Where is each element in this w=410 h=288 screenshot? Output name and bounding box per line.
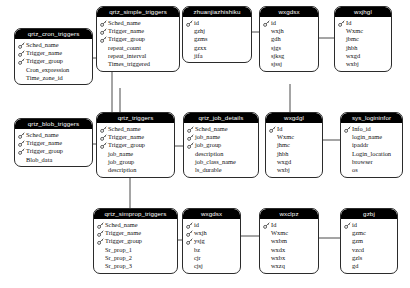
entity-table-qrtz_simprop_triggers[interactable]: qrtz_simprop_triggersSched_nameTrigger_n…	[93, 208, 178, 274]
field-name: Trigger_group	[26, 57, 63, 64]
primary-key-field: Trigger_name	[94, 229, 177, 237]
field-name: sjgs	[271, 44, 281, 51]
entity-title: wxjhgl	[335, 7, 391, 17]
field-row: gzls	[341, 254, 397, 262]
entity-table-wxclpz[interactable]: wxclpzIdWxmcwxbmwxdxwxbxwxzq	[259, 208, 319, 274]
field-row: Wxmc	[335, 27, 391, 35]
primary-key-field: Trigger_group	[97, 141, 174, 149]
entity-table-zhuanjiazhishiku[interactable]: zhuanjiazhishikuidgzhjgzmsgzxxjifa	[182, 6, 252, 63]
field-row: ls_durable	[184, 166, 258, 174]
field-name: Wxmc	[346, 27, 363, 34]
primary-key-field: Sched_name	[97, 19, 179, 27]
field-row: Sr_prop_1	[94, 246, 177, 254]
entity-table-qrtz_job_details[interactable]: qrtz_job_detailsSched_namejob_namejob_gr…	[183, 112, 259, 178]
field-name: Sr_prop_3	[105, 262, 132, 269]
field-name: Wxmc	[271, 229, 288, 236]
key-icon	[100, 20, 107, 27]
entity-table-qrtz_blob_triggers[interactable]: qrtz_blob_triggersSched_nameTrigger_name…	[14, 118, 93, 167]
entity-field-list: Sched_nameTrigger_nameTrigger_groupSr_pr…	[94, 219, 177, 273]
field-row: jifa	[183, 52, 251, 60]
field-name: cjsj	[194, 262, 203, 269]
primary-key-field: Trigger_group	[15, 147, 92, 155]
field-name: gzhj	[194, 27, 205, 34]
field-row: wxgd	[266, 158, 322, 166]
entity-field-list: Sched_nameTrigger_nameTrigger_groupBlob_…	[15, 129, 92, 166]
key-icon	[344, 222, 351, 229]
field-name: id	[194, 221, 199, 228]
entity-title: qrtz_job_details	[184, 113, 258, 123]
field-name: job_name	[108, 150, 133, 157]
field-name: gzmc	[352, 229, 366, 236]
key-icon	[186, 238, 193, 245]
field-name: wxdx	[271, 246, 285, 253]
primary-key-field: Trigger_group	[94, 237, 177, 245]
field-name: browser	[352, 158, 373, 165]
field-name: Login_location	[352, 150, 391, 157]
field-name: wxbj	[346, 60, 359, 67]
field-name: sjssj	[271, 60, 282, 67]
field-row: cjr	[183, 254, 240, 262]
field-row: wxbj	[335, 60, 391, 68]
field-name: Sched_name	[26, 41, 59, 48]
field-row: jhmc	[266, 141, 322, 149]
field-row: Blob_data	[15, 156, 92, 164]
field-row: wxbj	[266, 166, 322, 174]
entity-table-wxgdsx_bottom[interactable]: wxgdsxidwxjhysjgbzcjrcjsj	[182, 208, 241, 274]
field-name: Id	[277, 125, 282, 132]
field-name: ipaddr	[352, 141, 368, 148]
field-row: gzxx	[183, 44, 251, 52]
field-row: os	[341, 166, 402, 174]
field-row: job_group	[97, 158, 174, 166]
field-name: wxbm	[271, 237, 287, 244]
field-row: wxjh	[260, 27, 318, 35]
entity-table-wxgdsx_top[interactable]: wxgdsxidwxjhgdhsjgssjksgsjssj	[259, 6, 319, 72]
field-name: id	[271, 19, 276, 26]
field-name: Trigger_group	[108, 35, 145, 42]
field-name: Sched_name	[105, 221, 138, 228]
field-name: Trigger_name	[108, 133, 144, 140]
primary-key-field: job_group	[184, 141, 258, 149]
field-name: description	[195, 150, 223, 157]
field-name: jhmc	[277, 141, 290, 148]
field-name: repeat_interval	[108, 52, 146, 59]
field-row: Login_location	[341, 150, 402, 158]
field-name: sjksg	[271, 52, 284, 59]
key-icon	[338, 20, 345, 27]
entity-field-list: IdWxmcjbmcjhbhwxgdwxbj	[335, 17, 391, 71]
field-row: bz	[183, 246, 240, 254]
field-row: login_name	[341, 133, 402, 141]
field-row: job_name	[97, 150, 174, 158]
entity-table-wxjhgl[interactable]: wxjhglIdWxmcjbmcjhbhwxgdwxbj	[334, 6, 392, 72]
field-row: vzcd	[341, 246, 397, 254]
key-icon	[186, 230, 193, 237]
entity-table-wxgdgl[interactable]: wxgdglIdWxmcjhmcjhbhwxgdwxbj	[265, 112, 323, 178]
field-name: vzcd	[352, 246, 364, 253]
field-row: jbmc	[335, 35, 391, 43]
primary-key-field: Sched_name	[15, 131, 92, 139]
entity-table-qrtz_triggers[interactable]: qrtz_triggersSched_nameTrigger_nameTrigg…	[96, 112, 175, 178]
entity-table-sys_logininfor[interactable]: sys_logininforInfo_idlogin_nameipaddrLog…	[340, 112, 403, 178]
field-name: gdh	[271, 35, 281, 42]
field-name: Trigger_name	[105, 229, 141, 236]
field-name: wxbx	[271, 254, 285, 261]
entity-table-gzbj[interactable]: gzbjidgzmcgzmvzcdgzlsgd	[340, 208, 398, 274]
er-diagram-canvas: qrtz_cron_triggersSched_nameTrigger_name…	[0, 0, 410, 288]
field-name: Trigger_name	[26, 49, 62, 56]
key-icon	[344, 126, 351, 133]
key-icon	[100, 126, 107, 133]
field-row: wxbm	[260, 237, 318, 245]
entity-field-list: Sched_namejob_namejob_groupdescriptionjo…	[184, 123, 258, 177]
field-name: gzls	[352, 254, 362, 261]
key-icon	[18, 58, 25, 65]
entity-table-qrtz_cron_triggers[interactable]: qrtz_cron_triggersSched_nameTrigger_name…	[14, 28, 93, 85]
entity-title: wxgdsx	[260, 7, 318, 17]
field-row: gzhj	[183, 27, 251, 35]
key-icon	[186, 222, 193, 229]
field-name: Trigger_name	[26, 139, 62, 146]
field-row: repeat_count	[97, 44, 179, 52]
entity-table-qrtz_simple_triggers[interactable]: qrtz_simple_triggersSched_nameTrigger_na…	[96, 6, 180, 72]
primary-key-field: Sched_name	[97, 125, 174, 133]
field-name: job_name	[195, 133, 220, 140]
field-name: cjr	[194, 254, 201, 261]
field-name: login_name	[352, 133, 382, 140]
